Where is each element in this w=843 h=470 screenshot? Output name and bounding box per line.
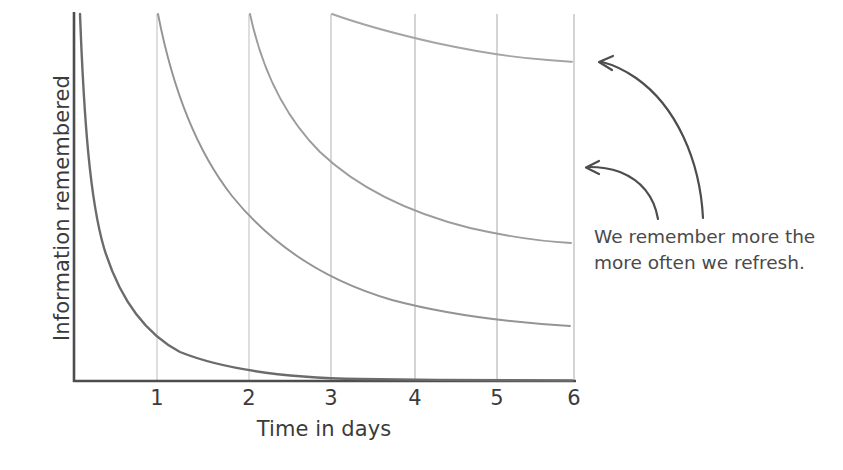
- chart-annotation: We remember more the more often we refre…: [594, 224, 840, 277]
- curve-group: [80, 14, 572, 381]
- curve-review-day-2: [250, 14, 571, 243]
- curve-review-day-1: [158, 14, 570, 326]
- annotation-arrows: [586, 56, 703, 219]
- x-axis-label: Time in days: [73, 417, 575, 441]
- forgetting-curve-figure: Information remembered Time in days 1 2 …: [0, 0, 843, 470]
- axes: [73, 12, 576, 382]
- chart-annotation-line-1: We remember more the: [594, 224, 840, 250]
- x-tick-label-1: 1: [137, 386, 177, 410]
- y-axis-label: Information remembered: [50, 28, 74, 388]
- x-tick-label-4: 4: [395, 386, 435, 410]
- chart-annotation-line-2: more often we refresh.: [594, 250, 840, 276]
- gridlines: [157, 14, 574, 381]
- x-tick-label-3: 3: [311, 386, 351, 410]
- curve-initial-learning: [80, 14, 572, 381]
- curve-review-day-3: [332, 14, 572, 62]
- x-tick-label-5: 5: [477, 386, 517, 410]
- x-tick-label-6: 6: [554, 386, 594, 410]
- x-tick-label-2: 2: [229, 386, 269, 410]
- arrow-to-top-curve-shaft: [602, 62, 703, 218]
